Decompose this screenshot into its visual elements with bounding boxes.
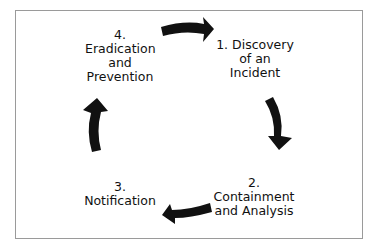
cycle-arrows [0, 0, 374, 249]
arrow-down-icon [265, 97, 292, 150]
step-2-label: 2. Containment and Analysis [210, 176, 298, 218]
step-3-label: 3. Notification [80, 180, 160, 208]
arrow-left-icon [162, 203, 212, 224]
arrow-right-icon [161, 17, 214, 42]
arrow-up-icon [83, 98, 108, 152]
step-4-label: 4. Eradication and Prevention [85, 28, 155, 84]
step-1-label: 1. Discovery of an Incident [215, 38, 295, 80]
